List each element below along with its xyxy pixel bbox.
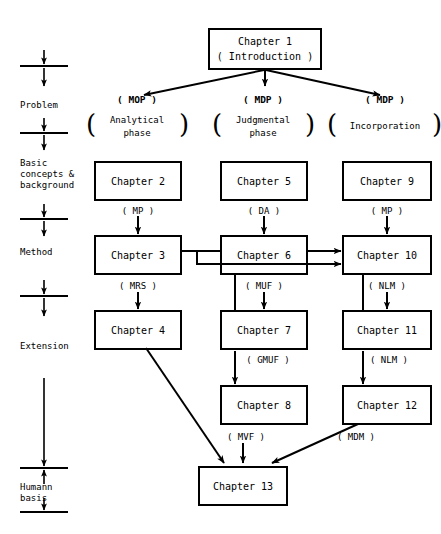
phase-paren-right-judgmental: ): [305, 109, 315, 139]
node-chapter-7-label: Chapter 7: [237, 325, 291, 336]
phase-name-judgmental-1: Judgmental: [236, 115, 290, 125]
diagram-canvas: Problem Basic concepts & background Meth…: [0, 0, 441, 534]
phase-header-judgmental: ( MDP ) ( ) Judgmental phase: [212, 94, 315, 140]
node-chapter-13[interactable]: Chapter 13: [199, 467, 287, 505]
edge-label-ch12-ch13: ( MDM ): [337, 432, 375, 442]
edge-label-ch2-ch3: ( MP ): [122, 206, 155, 216]
node-chapter-8[interactable]: Chapter 8: [221, 386, 307, 424]
edge-ch12-to-ch13: [272, 424, 358, 463]
axis-label-method: Method: [20, 247, 53, 257]
node-chapter-5-label: Chapter 5: [237, 176, 291, 187]
phase-name-analytical-2: phase: [123, 128, 150, 138]
node-chapter-1-line2: ( Introduction ): [217, 51, 313, 62]
node-chapter-3[interactable]: Chapter 3: [95, 236, 181, 274]
node-chapter-1[interactable]: Chapter 1 ( Introduction ): [209, 29, 321, 69]
node-chapter-11-label: Chapter 11: [357, 325, 417, 336]
node-chapter-4-label: Chapter 4: [111, 325, 165, 336]
node-chapter-5[interactable]: Chapter 5: [221, 162, 307, 200]
stage-axis: Problem Basic concepts & background Meth…: [20, 50, 75, 512]
phase-tag-judgmental: ( MDP ): [243, 94, 283, 105]
node-chapter-8-label: Chapter 8: [237, 400, 291, 411]
phase-name-analytical-1: Analytical: [110, 115, 164, 125]
node-chapter-2[interactable]: Chapter 2: [95, 162, 181, 200]
edge-ch1-to-incorporation: [266, 70, 380, 95]
phase-paren-right-incorporation: ): [432, 109, 441, 139]
node-chapter-13-label: Chapter 13: [213, 481, 273, 492]
edge-label-ch5-ch6: ( DA ): [248, 206, 281, 216]
phase-name-incorporation-1: Incorporation: [350, 121, 420, 131]
phase-header-incorporation: ( MDP ) ( ) Incorporation: [327, 94, 441, 140]
edge-label-ch6-ch7: ( MUF ): [245, 281, 283, 291]
edge-label-ch7-ch8: ( GMUF ): [246, 355, 289, 365]
node-chapter-4[interactable]: Chapter 4: [95, 311, 181, 349]
node-chapter-2-label: Chapter 2: [111, 176, 165, 187]
node-chapter-6-label: Chapter 6: [237, 250, 291, 261]
axis-label-basic-3: background: [20, 180, 74, 190]
node-chapter-1-line1: Chapter 1: [238, 36, 292, 47]
phase-header-analytical: ( MOP ) ( ) Analytical phase: [86, 94, 189, 140]
edge-label-ch8-ch13: ( MVF ): [227, 432, 265, 442]
phase-paren-left-judgmental: (: [212, 109, 222, 139]
edge-label-ch9-ch10: ( MP ): [371, 206, 404, 216]
edge-ch4-to-ch13: [146, 348, 224, 463]
node-chapter-6[interactable]: Chapter 6: [221, 236, 307, 274]
node-chapter-12-label: Chapter 12: [357, 400, 417, 411]
axis-label-humann-1: Humann: [20, 482, 53, 492]
phase-paren-left-incorporation: (: [327, 109, 337, 139]
node-chapter-9[interactable]: Chapter 9: [343, 162, 431, 200]
node-chapter-10[interactable]: Chapter 10: [343, 236, 431, 274]
node-chapter-12[interactable]: Chapter 12: [343, 386, 431, 424]
node-chapter-10-label: Chapter 10: [357, 250, 417, 261]
axis-label-basic-1: Basic: [20, 158, 47, 168]
axis-label-basic-2: concepts &: [20, 169, 75, 179]
node-chapter-11[interactable]: Chapter 11: [343, 311, 431, 349]
edge-label-ch3-ch4: ( MRS ): [119, 281, 157, 291]
node-chapter-3-label: Chapter 3: [111, 250, 165, 261]
edge-label-ch10-ch11: ( NLM ): [368, 281, 406, 291]
phase-tag-incorporation: ( MDP ): [365, 94, 405, 105]
phase-name-judgmental-2: phase: [249, 128, 276, 138]
node-chapter-7[interactable]: Chapter 7: [221, 311, 307, 349]
node-chapter-9-label: Chapter 9: [360, 176, 414, 187]
phase-paren-right-analytical: ): [179, 109, 189, 139]
edge-label-ch11-ch12: ( NLM ): [370, 355, 408, 365]
axis-label-problem: Problem: [20, 100, 58, 110]
phase-paren-left-analytical: (: [86, 109, 96, 139]
edge-ch1-to-analytical: [144, 70, 264, 95]
flowchart-svg: Problem Basic concepts & background Meth…: [0, 0, 441, 534]
phase-tag-analytical: ( MOP ): [117, 94, 157, 105]
axis-label-extension: Extension: [20, 341, 69, 351]
axis-label-humann-2: basis: [20, 493, 47, 503]
node-chapter-1-box[interactable]: [209, 29, 321, 69]
